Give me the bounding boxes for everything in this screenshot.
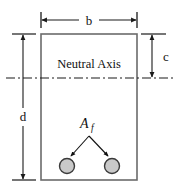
- reinforcement-area-label: A: [79, 116, 89, 131]
- d-dimension-label: d: [20, 109, 27, 124]
- reinforcement-bar-left: [60, 159, 75, 174]
- c-dimension-label: c: [163, 49, 169, 64]
- beam-cross-section-figure: Neutral Axis b c d A f: [0, 0, 178, 189]
- beam-section-outline: [41, 34, 137, 180]
- figure-canvas: Neutral Axis b c d A f: [0, 0, 178, 189]
- width-dimension-label: b: [86, 13, 93, 28]
- neutral-axis-label: Neutral Axis: [57, 57, 121, 71]
- reinforcement-bar-right: [105, 159, 120, 174]
